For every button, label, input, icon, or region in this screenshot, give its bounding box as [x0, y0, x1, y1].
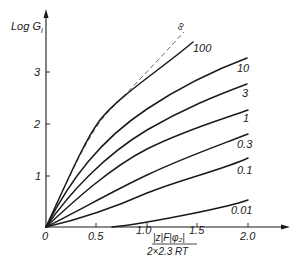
x-tick-label-1.0: 1.0 [136, 224, 152, 236]
curve-0.01 [112, 200, 248, 227]
y-tick-label-2: 2 [33, 118, 40, 130]
y-axis-label: Log Gi [11, 20, 43, 35]
x-axis-arrow-icon [281, 225, 290, 230]
x-tick-label-2.0: 2.0 [239, 230, 256, 242]
origin-label: 0 [42, 230, 49, 242]
y-ticks [46, 72, 50, 176]
curves [46, 32, 248, 227]
y-tick-label-3: 3 [34, 66, 41, 78]
curve-10 [46, 58, 247, 227]
curve-3 [46, 84, 247, 227]
curve-label-0.3: 0.3 [237, 138, 253, 150]
x-tick-label-1.5: 1.5 [189, 224, 205, 236]
curve-label-3: 3 [242, 87, 249, 99]
curve-label-1: 1 [243, 112, 249, 124]
curve-label-0.1: 0.1 [237, 164, 252, 176]
x-axis-label-denominator: 2×2.3 RT [146, 246, 189, 257]
y-axis-arrow-icon [44, 9, 49, 18]
curve-label-10: 10 [237, 62, 250, 74]
curve-label-0.01: 0.01 [231, 204, 252, 216]
curve-0.1 [46, 158, 248, 227]
curve-1 [46, 110, 248, 227]
x-tick-label-0.5: 0.5 [88, 230, 104, 242]
x-axis-label-numerator: |z|F|φ₂| [153, 232, 185, 243]
chart: Log Gi 3 2 1 0 0.5 1.0 1.5 2.0 |z|F|φ₂| … [0, 0, 295, 265]
curve-0.3 [46, 134, 248, 227]
y-tick-label-1: 1 [35, 170, 41, 182]
curve-infinity [46, 32, 184, 227]
curve-label-100: 100 [193, 42, 212, 54]
curve-label-infinity: ∞ [173, 20, 187, 33]
